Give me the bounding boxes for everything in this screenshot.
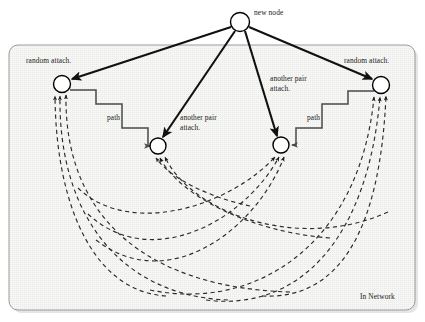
node-random-attach-left[interactable]	[54, 76, 71, 93]
label-in-network: In Network	[360, 292, 395, 301]
label-path-right: path	[307, 113, 320, 122]
network-attachment-diagram: new node random attach. random attach. a…	[0, 0, 425, 322]
label-random-attach-right: random attach.	[344, 56, 389, 65]
label-another-pair-attach-right: another pair attach.	[270, 74, 307, 93]
label-random-attach-left: random attach.	[26, 56, 71, 65]
diagram-canvas	[0, 0, 425, 322]
label-another-pair-attach-left: another pair attach.	[180, 113, 217, 132]
node-new[interactable]	[231, 13, 250, 32]
label-path-left: path	[107, 113, 120, 122]
label-new-node: new node	[254, 8, 283, 17]
node-another-pair-attach-right[interactable]	[273, 137, 289, 153]
node-random-attach-right[interactable]	[373, 77, 390, 94]
node-another-pair-attach-left[interactable]	[150, 138, 166, 154]
